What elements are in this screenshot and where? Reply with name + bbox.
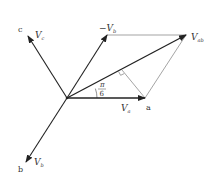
label-Vab: Vab [191, 32, 204, 43]
label-negVb: −Vb [99, 23, 116, 34]
construction-line-right [145, 35, 186, 98]
label-Vc: Vc [35, 30, 45, 41]
angle-arc [95, 89, 97, 98]
label-point-c: c [18, 25, 23, 34]
phasor-diagram: c a b Vc Vb Va −Vb Vab π 6 [0, 0, 217, 182]
perpendicular-line [122, 70, 145, 98]
label-Va: Va [121, 103, 131, 114]
right-angle-marker [119, 72, 125, 76]
angle-denominator: 6 [100, 90, 105, 98]
phasor-Vab [67, 35, 186, 98]
angle-numerator: π [99, 81, 105, 89]
phasor-Vb [26, 98, 67, 162]
label-point-b: b [18, 165, 23, 174]
label-point-a: a [146, 103, 151, 112]
label-Vb: Vb [34, 157, 44, 168]
phasor-Vc [28, 36, 67, 98]
origin-point [66, 97, 69, 100]
